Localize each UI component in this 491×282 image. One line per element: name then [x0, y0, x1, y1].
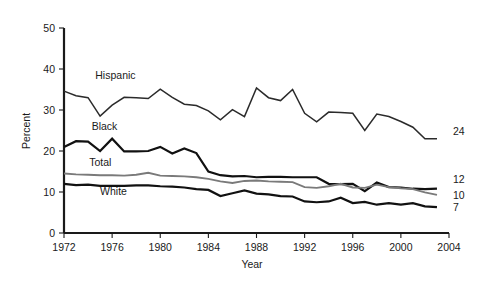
- y-tick-label: 20: [43, 145, 55, 157]
- chart-container: 01020304050 1972197619801984198819921996…: [0, 0, 491, 282]
- series-line-black: [64, 139, 437, 191]
- series-line-hispanic: [64, 88, 437, 139]
- axes-group: [64, 28, 449, 233]
- end-label-black: 12: [453, 173, 465, 185]
- end-label-total: 10: [453, 189, 465, 201]
- y-tick-label: 30: [43, 104, 55, 116]
- y-tick-label: 40: [43, 63, 55, 75]
- end-label-hispanic: 24: [453, 125, 465, 137]
- x-tick-label: 1976: [100, 241, 124, 253]
- series-label-white: White: [100, 185, 127, 197]
- x-axis-title: Year: [241, 258, 263, 270]
- x-tick-label: 1980: [149, 241, 173, 253]
- x-axis-ticks: 197219761980198419881992199620002004: [52, 233, 461, 253]
- y-tick-label: 10: [43, 186, 55, 198]
- series-label-black: Black: [92, 120, 118, 132]
- series-inline-labels: HispanicBlackTotalWhite: [89, 69, 135, 197]
- end-label-white: 7: [453, 201, 459, 213]
- y-tick-label: 50: [43, 22, 55, 34]
- y-tick-label: 0: [49, 227, 55, 239]
- dropout-rate-line-chart: 01020304050 1972197619801984198819921996…: [0, 0, 491, 282]
- series-label-hispanic: Hispanic: [95, 69, 135, 81]
- x-tick-label: 2000: [389, 241, 413, 253]
- x-tick-label: 1996: [341, 241, 365, 253]
- series-label-total: Total: [89, 156, 111, 168]
- x-tick-label: 1992: [293, 241, 317, 253]
- x-tick-label: 1988: [245, 241, 269, 253]
- x-tick-label: 1972: [52, 241, 76, 253]
- x-tick-label: 1984: [197, 241, 221, 253]
- y-axis-ticks: 01020304050: [43, 22, 64, 239]
- y-axis-title: Percent: [20, 113, 32, 149]
- x-tick-label: 2004: [437, 241, 461, 253]
- series-end-value-labels: 2412107: [453, 125, 465, 213]
